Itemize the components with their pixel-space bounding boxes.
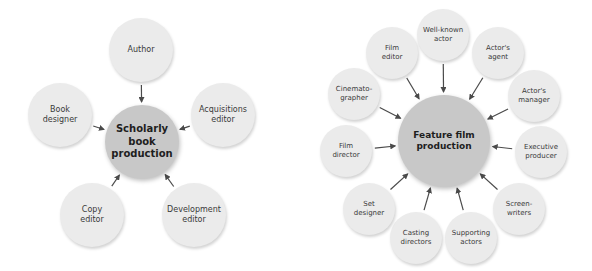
node-cinemato-grapher: Cinemato- grapher: [328, 68, 380, 120]
node-label: Film director: [332, 142, 359, 160]
node-supporting-actors: Supporting actors: [445, 212, 497, 264]
node-development-editor: Development editor: [162, 183, 226, 247]
arrow-actor-s-manager-to-hub: [488, 109, 508, 119]
node-copy-editor: Copy editor: [60, 183, 124, 247]
node-label: Cinemato- grapher: [336, 85, 372, 103]
node-label: Author: [128, 45, 155, 55]
arrow-book-designer-to-hub: [93, 126, 104, 130]
node-label: Actor's manager: [518, 87, 549, 105]
scholarly-hub-node: Scholarly book production: [105, 105, 179, 179]
node-book-designer: Book designer: [28, 83, 92, 147]
node-actor-s-manager: Actor's manager: [508, 70, 560, 122]
node-acquisitions-editor: Acquisitions editor: [191, 83, 255, 147]
node-label: Well-known actor: [423, 26, 463, 44]
node-label: Supporting actors: [452, 229, 491, 247]
node-label: Set designer: [354, 200, 384, 218]
arrow-screen-writers-to-hub: [480, 174, 497, 190]
node-label: Executive producer: [524, 143, 558, 161]
feature-film-hub-node: Feature film production: [398, 95, 490, 187]
arrow-set-designer-to-hub: [390, 174, 407, 190]
hub-label: Scholarly book production: [111, 123, 172, 161]
node-set-designer: Set designer: [343, 183, 395, 235]
node-label: Copy editor: [80, 205, 104, 225]
arrow-acquisitions-editor-to-hub: [180, 126, 190, 129]
node-film-director: Film director: [320, 125, 372, 177]
node-author: Author: [109, 18, 173, 82]
node-executive-producer: Executive producer: [515, 126, 567, 178]
node-label: Book designer: [43, 105, 78, 125]
node-film-editor: Film editor: [366, 27, 418, 79]
node-label: Screen- writers: [506, 200, 533, 218]
arrow-copy-editor-to-hub: [112, 175, 120, 186]
node-label: Acquisitions editor: [199, 105, 247, 125]
arrow-development-editor-to-hub: [165, 175, 173, 187]
node-well-known-actor: Well-known actor: [417, 9, 469, 61]
arrow-cinemato-grapher-to-hub: [380, 107, 401, 118]
node-label: Development editor: [167, 205, 221, 225]
node-label: Film editor: [382, 44, 403, 62]
arrow-film-editor-to-hub: [407, 78, 419, 99]
node-screen-writers: Screen- writers: [493, 183, 545, 235]
arrow-film-director-to-hub: [375, 146, 395, 148]
arrow-supporting-actors-to-hub: [457, 188, 463, 210]
node-label: Actor's agent: [486, 44, 510, 62]
node-actor-s-agent: Actor's agent: [472, 27, 524, 79]
hub-label: Feature film production: [413, 130, 474, 153]
arrow-executive-producer-to-hub: [493, 147, 512, 149]
node-casting-directors: Casting directors: [390, 212, 442, 264]
node-label: Casting directors: [401, 229, 432, 247]
arrow-casting-directors-to-hub: [424, 188, 430, 210]
arrow-actor-s-agent-to-hub: [470, 78, 483, 100]
